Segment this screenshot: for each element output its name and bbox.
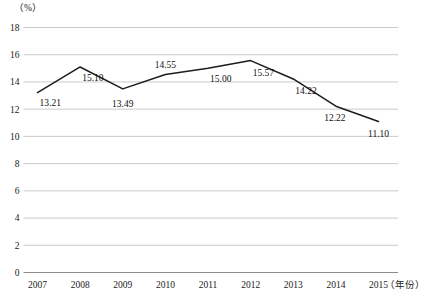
y-axis-tick-label: 18: [10, 23, 20, 33]
chart-background: [0, 0, 435, 306]
data-point-label: 14.55: [155, 60, 177, 70]
y-axis-tick-label: 6: [15, 186, 20, 196]
y-axis-tick-label: 10: [10, 132, 20, 142]
x-axis-tick-label: 2008: [71, 280, 90, 290]
data-point-label: 11.10: [368, 129, 389, 139]
y-axis-tick-label: 8: [15, 159, 20, 169]
data-point-label: 15.57: [253, 68, 275, 78]
y-axis-tick-label: 12: [10, 105, 20, 115]
data-point-label: 12.22: [324, 113, 346, 123]
data-point-label: 14.22: [295, 86, 317, 96]
chart-canvas: 181614121086420 200720082009201020112012…: [0, 0, 435, 306]
x-axis-tick-label: 2007: [28, 280, 47, 290]
y-axis-tick-label: 0: [15, 268, 20, 278]
x-axis-tick-label: 2014: [326, 280, 345, 290]
x-axis-tick-label: 2010: [156, 280, 175, 290]
data-point-label: 15.10: [82, 73, 104, 83]
x-axis-tick-labels: 200720082009201020112012201320142015: [28, 280, 388, 290]
y-axis-tick-label: 16: [10, 50, 20, 60]
x-axis-unit-label: （年份）: [385, 279, 425, 290]
y-axis-tick-label: 2: [15, 241, 20, 251]
y-axis-unit-label: （%）: [14, 2, 42, 13]
y-axis-tick-label: 4: [15, 213, 20, 223]
y-axis-tick-label: 14: [10, 77, 20, 87]
data-point-label: 15.00: [210, 74, 232, 84]
data-point-label: 13.49: [112, 99, 134, 109]
x-axis-tick-label: 2013: [284, 280, 303, 290]
data-point-label: 13.21: [40, 98, 62, 108]
line-chart: 181614121086420 200720082009201020112012…: [0, 0, 435, 306]
x-axis-tick-label: 2011: [199, 280, 218, 290]
x-axis-tick-label: 2009: [113, 280, 132, 290]
x-axis-tick-label: 2012: [241, 280, 260, 290]
